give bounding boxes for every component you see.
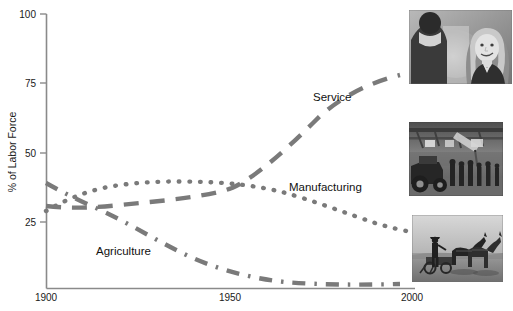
x-tick-label-2000: 2000	[401, 292, 424, 303]
x-tick-label-1900: 1900	[35, 292, 58, 303]
y-tick-label-100: 100	[19, 9, 36, 20]
series-label-service: Service	[313, 91, 351, 103]
service-photo	[409, 10, 512, 84]
agriculture-photo	[412, 215, 503, 282]
y-axis-title: % of Labor Force	[6, 112, 18, 193]
labor-force-chart-figure: 100 75 50 25 1900 1950 2000 % of Labor F…	[0, 0, 513, 311]
y-tick-label-25: 25	[25, 217, 37, 228]
service-photo-art	[409, 10, 512, 84]
x-tick-label-1950: 1950	[219, 292, 242, 303]
manufacturing-photo-art	[409, 122, 503, 196]
series-line-agriculture	[46, 183, 400, 285]
series-label-agriculture: Agriculture	[96, 245, 151, 257]
series-label-manufacturing: Manufacturing	[289, 181, 362, 193]
y-tick-label-50: 50	[25, 148, 37, 159]
manufacturing-photo	[409, 122, 503, 196]
y-tick-label-75: 75	[25, 78, 37, 89]
agriculture-photo-art	[412, 215, 503, 282]
